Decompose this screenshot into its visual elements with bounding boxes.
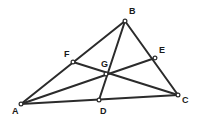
point-label-A: A [12,107,19,116]
triangle-sides [21,21,178,104]
vertex-dot-D [97,98,101,102]
geometry-figure: A B C D E F G [0,0,199,123]
vertex-dot-E [153,56,157,60]
vertex-dot-B [123,19,127,23]
point-label-E: E [159,46,165,55]
point-label-F: F [64,50,70,59]
point-label-G: G [101,60,108,69]
point-label-D: D [100,107,107,116]
vertex-dot-G [104,72,108,76]
side-BC [125,21,178,95]
vertex-dot-F [71,60,75,64]
vertex-dot-C [176,93,180,97]
median-CF [73,62,178,95]
vertex-dot-A [19,102,23,106]
point-label-C: C [182,96,189,105]
point-label-B: B [129,7,136,16]
geometry-canvas [0,0,199,123]
